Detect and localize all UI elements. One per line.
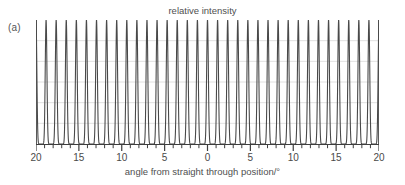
figure-panel: relative intensity (a) 201510505101520 a… bbox=[0, 0, 405, 185]
panel-label: (a) bbox=[8, 22, 21, 33]
x-tick-label: 15 bbox=[73, 152, 84, 163]
x-tick-label: 15 bbox=[331, 152, 342, 163]
plot-area bbox=[36, 20, 379, 144]
chart-title: relative intensity bbox=[0, 5, 405, 16]
x-axis-tick-labels: 201510505101520 bbox=[0, 152, 405, 166]
intensity-plot-svg bbox=[36, 20, 379, 144]
x-axis-title: angle from straight through position/° bbox=[0, 166, 405, 177]
x-tick-label: 20 bbox=[30, 152, 41, 163]
x-tick-label: 10 bbox=[116, 152, 127, 163]
x-tick-label: 5 bbox=[162, 152, 168, 163]
x-tick-label: 10 bbox=[288, 152, 299, 163]
x-tick-label: 5 bbox=[248, 152, 254, 163]
x-axis-ticks bbox=[36, 144, 379, 151]
x-tick-label: 20 bbox=[373, 152, 384, 163]
x-tick-label: 0 bbox=[205, 152, 211, 163]
